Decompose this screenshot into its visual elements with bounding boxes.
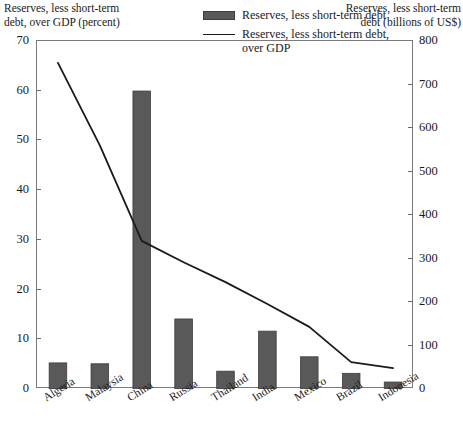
- left-axis-title: Reserves, less short-term debt, over GDP…: [4, 2, 194, 29]
- left-tick-label-70: 70: [1, 34, 29, 47]
- right-tick-label-200: 200: [419, 295, 453, 308]
- left-tick-label-50: 50: [1, 133, 29, 146]
- right-tick-mark-100: [408, 345, 413, 346]
- left-tick-label-60: 60: [1, 84, 29, 97]
- left-tick-label-30: 30: [1, 233, 29, 246]
- bar-series: [49, 91, 402, 389]
- right-tick-label-600: 600: [419, 121, 453, 134]
- legend-label-line: Reserves, less short-term debt, over GDP: [242, 27, 393, 56]
- right-tick-label-0: 0: [419, 382, 453, 395]
- left-tick-mark-30: [36, 239, 41, 240]
- right-tick-mark-200: [408, 301, 413, 302]
- right-tick-label-700: 700: [419, 78, 453, 91]
- right-tick-label-500: 500: [419, 165, 453, 178]
- plot-graphics: [37, 41, 414, 389]
- bar-india: [259, 331, 277, 389]
- right-tick-label-800: 800: [419, 34, 453, 47]
- right-tick-label-100: 100: [419, 339, 453, 352]
- left-tick-mark-50: [36, 139, 41, 140]
- left-tick-label-10: 10: [1, 332, 29, 345]
- left-tick-label-0: 0: [1, 382, 29, 395]
- right-tick-mark-600: [408, 127, 413, 128]
- right-tick-mark-500: [408, 171, 413, 172]
- plot-area: [36, 40, 413, 388]
- left-tick-mark-60: [36, 90, 41, 91]
- right-tick-mark-300: [408, 258, 413, 259]
- line-series: [58, 63, 393, 368]
- chart-legend: Reserves, less short-term debt Reserves,…: [203, 8, 393, 60]
- left-tick-label-40: 40: [1, 183, 29, 196]
- right-tick-label-300: 300: [419, 252, 453, 265]
- chart-figure: Reserves, less short-term debt, over GDP…: [0, 0, 463, 447]
- right-tick-mark-400: [408, 214, 413, 215]
- left-tick-mark-10: [36, 338, 41, 339]
- legend-item-line: Reserves, less short-term debt, over GDP: [203, 27, 393, 56]
- right-tick-label-400: 400: [419, 208, 453, 221]
- legend-item-bar: Reserves, less short-term debt: [203, 8, 393, 23]
- right-tick-mark-700: [408, 84, 413, 85]
- left-tick-mark-40: [36, 189, 41, 190]
- line-swatch-icon: [203, 30, 235, 39]
- bar-swatch-icon: [203, 11, 235, 20]
- left-tick-label-20: 20: [1, 283, 29, 296]
- left-tick-mark-20: [36, 289, 41, 290]
- legend-label-bar: Reserves, less short-term debt: [242, 8, 386, 23]
